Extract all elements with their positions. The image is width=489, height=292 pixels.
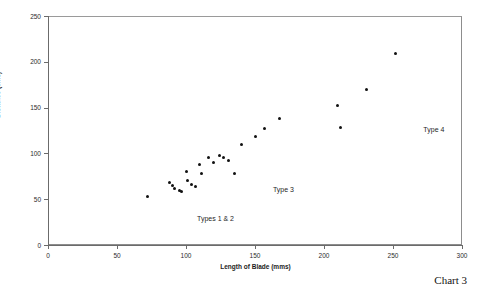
x-tick-label: 0	[36, 252, 60, 259]
y-tick-label: 250	[21, 13, 41, 20]
y-tick-mark	[44, 16, 48, 17]
x-tick-label: 250	[381, 252, 405, 259]
x-tick-mark	[48, 245, 49, 249]
x-tick-label: 200	[312, 252, 336, 259]
y-tick-label: 0	[21, 242, 41, 249]
x-tick-mark	[255, 245, 256, 249]
data-point	[200, 172, 203, 175]
chart-title-clipped: A scatter diagram to show the relationsh…	[0, 0, 489, 2]
x-tick-label: 100	[174, 252, 198, 259]
y-axis-title: Distance (cms)	[0, 72, 1, 118]
y-axis-line	[48, 16, 49, 246]
x-tick-label: 300	[450, 252, 474, 259]
y-tick-label: 50	[21, 196, 41, 203]
x-axis-title: Length of Blade (mms)	[48, 263, 463, 270]
x-tick-mark	[462, 245, 463, 249]
plot-area	[48, 16, 462, 245]
y-tick-mark	[44, 199, 48, 200]
data-point	[233, 172, 236, 175]
y-tick-mark	[44, 62, 48, 63]
x-tick-mark	[186, 245, 187, 249]
x-tick-mark	[117, 245, 118, 249]
x-tick-mark	[324, 245, 325, 249]
data-point	[185, 170, 188, 173]
x-tick-mark	[393, 245, 394, 249]
data-point	[240, 143, 243, 146]
y-tick-label: 200	[21, 58, 41, 65]
chart-caption: Chart 3	[434, 274, 467, 286]
x-tick-label: 150	[243, 252, 267, 259]
series-annotation: Type 4	[423, 126, 444, 133]
y-tick-mark	[44, 108, 48, 109]
y-tick-mark	[44, 153, 48, 154]
series-annotation: Type 3	[273, 186, 294, 193]
data-point	[222, 156, 225, 159]
y-tick-label: 100	[21, 150, 41, 157]
x-tick-label: 50	[105, 252, 129, 259]
series-annotation: Types 1 & 2	[197, 215, 234, 222]
data-point	[218, 154, 221, 157]
y-tick-label: 150	[21, 104, 41, 111]
data-point	[146, 195, 149, 198]
chart-page: A scatter diagram to show the relationsh…	[0, 0, 489, 292]
